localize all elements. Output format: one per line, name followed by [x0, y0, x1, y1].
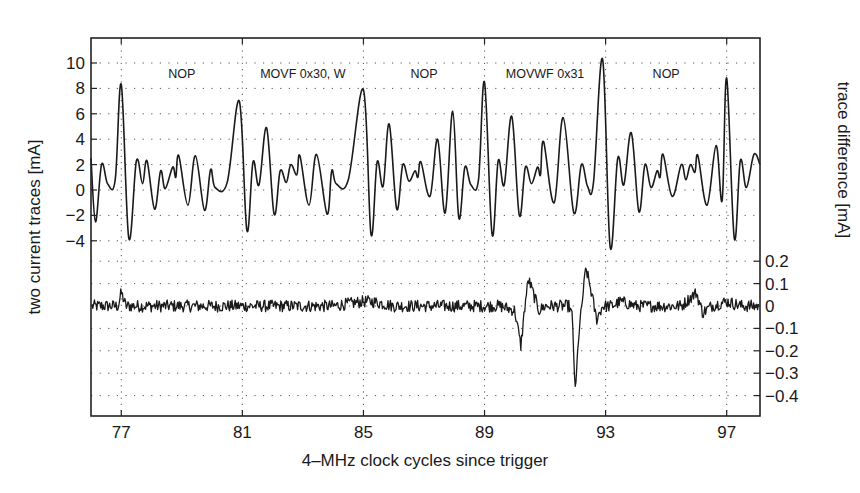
right-tick-label: 0.2: [765, 252, 789, 271]
line-chart: NOPMOVF 0x30, WNOPMOVWF 0x31NOP −4−20246…: [0, 0, 860, 493]
instruction-label: NOP: [410, 67, 437, 81]
instruction-label: MOVF 0x30, W: [260, 67, 346, 81]
x-axis: 778185899397: [112, 38, 736, 442]
right-tick-label: −0.4: [765, 387, 799, 406]
left-tick-label: 0: [76, 181, 85, 200]
instruction-label: NOP: [653, 67, 680, 81]
left-y-axis: −4−20246810: [66, 54, 97, 251]
x-tick-label: 97: [717, 423, 736, 442]
right-y-axis-label: trace difference [mA]: [834, 82, 853, 239]
left-tick-label: 10: [66, 54, 85, 73]
right-tick-label: −0.1: [765, 319, 799, 338]
right-tick-label: 0: [765, 297, 774, 316]
left-tick-label: −4: [66, 232, 85, 251]
left-y-axis-label: two current traces [mA]: [25, 140, 44, 315]
x-tick-label: 81: [233, 423, 252, 442]
left-tick-label: 4: [76, 130, 85, 149]
current-traces-line: [91, 58, 760, 249]
x-tick-label: 89: [475, 423, 494, 442]
right-tick-label: 0.1: [765, 275, 789, 294]
figure: NOPMOVF 0x30, WNOPMOVWF 0x31NOP −4−20246…: [0, 0, 860, 493]
left-tick-label: 8: [76, 79, 85, 98]
left-tick-label: −2: [66, 206, 85, 225]
instruction-label: MOVWF 0x31: [506, 67, 585, 81]
plot-traces: [91, 58, 760, 386]
right-tick-label: −0.3: [765, 364, 799, 383]
x-tick-label: 77: [112, 423, 131, 442]
trace-difference-line: [92, 268, 758, 386]
right-tick-label: −0.2: [765, 342, 799, 361]
x-tick-label: 93: [596, 423, 615, 442]
grid-lines: [91, 38, 760, 416]
x-tick-label: 85: [354, 423, 373, 442]
left-tick-label: 2: [76, 156, 85, 175]
x-axis-label: 4–MHz clock cycles since trigger: [302, 451, 549, 470]
axes-box: [91, 38, 760, 416]
instruction-label: NOP: [168, 67, 195, 81]
left-tick-label: 6: [76, 105, 85, 124]
